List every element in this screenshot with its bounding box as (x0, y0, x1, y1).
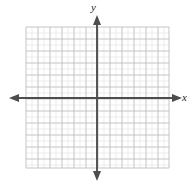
x-axis-right-arrow (172, 94, 182, 102)
x-axis-label: x (182, 92, 187, 103)
x-axis-left-arrow (9, 94, 19, 102)
x-axis (9, 94, 182, 102)
y-axis-label: y (91, 2, 96, 13)
coordinate-grid-svg (0, 0, 196, 185)
coordinate-plane-figure: y x (0, 0, 196, 185)
y-axis-bottom-arrow (93, 171, 101, 181)
y-axis-top-arrow (93, 15, 101, 25)
